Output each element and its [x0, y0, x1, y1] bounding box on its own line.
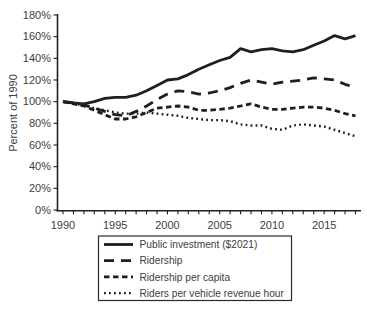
y-tick-label: 120% [23, 74, 51, 86]
legend-label: Ridership per capita [140, 272, 231, 283]
y-tick-label: 40% [29, 160, 51, 172]
y-axis: 0%20%40%60%80%100%120%140%160%180% [23, 9, 58, 216]
series-lines [63, 36, 356, 137]
transit-trends-line-chart: 0%20%40%60%80%100%120%140%160%180%199019… [0, 0, 367, 313]
y-tick-label: 160% [23, 30, 51, 42]
legend-label: Ridership [140, 255, 183, 266]
legend-label: Riders per vehicle revenue hour [140, 288, 285, 299]
y-tick-label: 60% [29, 139, 51, 151]
x-axis: 199019952000200520102015 [51, 211, 356, 231]
y-tick-label: 100% [23, 95, 51, 107]
y-tick-label: 80% [29, 117, 51, 129]
x-tick-label: 2000 [155, 219, 179, 231]
y-tick-label: 140% [23, 52, 51, 64]
transit-trends-figure: Percent of 1990 0%20%40%60%80%100%120%14… [0, 0, 367, 313]
legend-label: Public investment ($2021) [140, 239, 258, 250]
x-tick-label: 1995 [103, 219, 127, 231]
y-axis-title: Percent of 1990 [7, 74, 19, 152]
y-tick-label: 0% [35, 204, 51, 216]
x-tick-label: 1990 [51, 219, 75, 231]
line-ridership-per-capita [63, 102, 356, 119]
x-tick-label: 2010 [260, 219, 284, 231]
y-tick-label: 20% [29, 182, 51, 194]
y-tick-label: 180% [23, 9, 51, 21]
x-tick-label: 2005 [207, 219, 231, 231]
legend: Public investment ($2021)RidershipRiders… [99, 236, 292, 301]
x-tick-label: 2015 [312, 219, 336, 231]
